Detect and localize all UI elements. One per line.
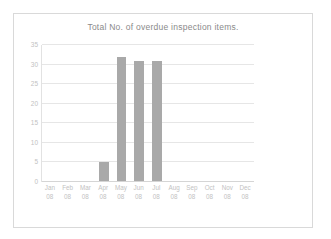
y-axis-tick-label: 25 bbox=[31, 80, 38, 87]
x-label-month: Feb bbox=[60, 184, 76, 193]
bar[interactable] bbox=[134, 61, 144, 181]
bar-slot bbox=[42, 45, 60, 181]
x-label-month: Aug bbox=[166, 184, 182, 193]
x-label-month: Dec bbox=[237, 184, 253, 193]
x-axis-tick-label: Jul08 bbox=[148, 184, 166, 201]
x-label-year: 08 bbox=[202, 193, 218, 202]
x-axis-labels: Jan08Feb08Mar08Apr08May08Jun08Jul08Aug08… bbox=[41, 184, 254, 201]
x-axis-tick-label: Apr08 bbox=[94, 184, 112, 201]
bar-slot bbox=[95, 45, 113, 181]
x-label-month: Mar bbox=[78, 184, 94, 193]
x-axis-line bbox=[42, 181, 254, 182]
chart-title: Total No. of overdue inspection items. bbox=[14, 22, 312, 32]
x-axis-tick-label: Mar08 bbox=[77, 184, 95, 201]
x-axis-tick-label: Sep08 bbox=[183, 184, 201, 201]
bar-slot bbox=[60, 45, 78, 181]
x-axis-tick-label: May08 bbox=[112, 184, 130, 201]
bar-slot bbox=[130, 45, 148, 181]
x-label-month: Oct bbox=[202, 184, 218, 193]
bar-slot bbox=[201, 45, 219, 181]
x-label-year: 08 bbox=[131, 193, 147, 202]
x-label-month: May bbox=[113, 184, 129, 193]
y-axis-tick-label: 15 bbox=[31, 119, 38, 126]
y-axis-tick-label: 5 bbox=[34, 158, 38, 165]
x-label-month: Apr bbox=[95, 184, 111, 193]
x-axis-tick-label: Aug08 bbox=[165, 184, 183, 201]
bar[interactable] bbox=[99, 162, 109, 181]
bar-slot bbox=[219, 45, 237, 181]
bar-slot bbox=[77, 45, 95, 181]
x-label-year: 08 bbox=[113, 193, 129, 202]
x-axis-tick-label: Jun08 bbox=[130, 184, 148, 201]
x-label-month: Jan bbox=[42, 184, 58, 193]
x-label-month: Nov bbox=[220, 184, 236, 193]
chart-container: Total No. of overdue inspection items. 0… bbox=[13, 13, 313, 228]
x-axis-tick-label: Oct08 bbox=[201, 184, 219, 201]
x-label-year: 08 bbox=[237, 193, 253, 202]
bar-slot bbox=[113, 45, 131, 181]
x-axis-tick-label: Nov08 bbox=[219, 184, 237, 201]
x-label-month: Jun bbox=[131, 184, 147, 193]
bar-slot bbox=[236, 45, 254, 181]
bar-slot bbox=[183, 45, 201, 181]
x-label-year: 08 bbox=[149, 193, 165, 202]
bar-series bbox=[42, 45, 254, 181]
y-axis-tick-label: 10 bbox=[31, 138, 38, 145]
x-label-year: 08 bbox=[166, 193, 182, 202]
x-label-year: 08 bbox=[184, 193, 200, 202]
x-label-year: 08 bbox=[78, 193, 94, 202]
bar[interactable] bbox=[117, 57, 127, 181]
bar-slot bbox=[166, 45, 184, 181]
bar-slot bbox=[148, 45, 166, 181]
plot-area: 05101520253035 bbox=[41, 45, 254, 182]
y-axis-tick-label: 30 bbox=[31, 60, 38, 67]
x-label-month: Sep bbox=[184, 184, 200, 193]
x-label-year: 08 bbox=[95, 193, 111, 202]
x-label-year: 08 bbox=[42, 193, 58, 202]
x-axis-tick-label: Jan08 bbox=[41, 184, 59, 201]
y-axis-tick-label: 0 bbox=[34, 178, 38, 185]
x-label-year: 08 bbox=[60, 193, 76, 202]
bar[interactable] bbox=[152, 61, 162, 181]
x-axis-tick-label: Dec08 bbox=[236, 184, 254, 201]
x-label-year: 08 bbox=[220, 193, 236, 202]
x-axis-tick-label: Feb08 bbox=[59, 184, 77, 201]
x-label-month: Jul bbox=[149, 184, 165, 193]
y-axis-tick-label: 20 bbox=[31, 99, 38, 106]
y-axis-tick-label: 35 bbox=[31, 41, 38, 48]
